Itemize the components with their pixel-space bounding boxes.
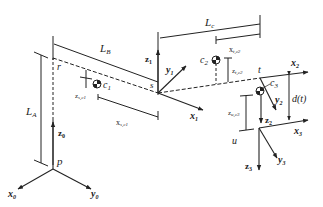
x2-axis bbox=[260, 72, 308, 78]
label-z0: z0 bbox=[58, 128, 65, 139]
label-y2: y2 bbox=[274, 94, 282, 106]
label-z1: z1 bbox=[145, 54, 152, 65]
label-z-uc3: zu,c3 bbox=[228, 109, 240, 118]
label-y3: y3 bbox=[277, 154, 285, 166]
label-c1: c1 bbox=[103, 79, 111, 92]
z-uc3-tick-top bbox=[240, 95, 253, 96]
c2-com-icon bbox=[212, 56, 220, 64]
label-la: LA bbox=[25, 105, 37, 119]
x1-axis bbox=[158, 93, 203, 110]
label-c3: c3 bbox=[270, 77, 278, 90]
c3-com-icon bbox=[256, 87, 264, 95]
label-z-sc1: zs,c1 bbox=[75, 92, 86, 101]
label-x0: x0 bbox=[7, 188, 16, 200]
kinematics-diagram: LA LB Lc r s t u p c1 c2 c3 zs,c1 xs,c1 … bbox=[0, 0, 323, 207]
label-x3: x3 bbox=[293, 125, 302, 137]
y0-axis bbox=[53, 169, 91, 189]
x-tc2-dimension bbox=[216, 34, 260, 40]
label-z3: z3 bbox=[245, 161, 252, 172]
label-lb: LB bbox=[99, 42, 111, 56]
label-p: p bbox=[56, 155, 63, 167]
label-u: u bbox=[232, 135, 237, 146]
label-c2: c2 bbox=[200, 54, 208, 67]
c1-com-icon bbox=[93, 80, 101, 88]
y3-axis bbox=[259, 128, 277, 158]
label-x-tc2: xt,c2 bbox=[229, 45, 241, 55]
label-s: s bbox=[150, 80, 154, 90]
link-s-t-dashed bbox=[158, 78, 260, 93]
label-z2: z2 bbox=[265, 115, 272, 126]
x-sc1-dimension bbox=[98, 97, 158, 117]
label-t: t bbox=[258, 64, 261, 75]
label-dt: d(t) bbox=[292, 93, 307, 105]
label-z-tc2: zt,c2 bbox=[232, 67, 243, 76]
label-lc: Lc bbox=[204, 16, 215, 30]
label-x1: x1 bbox=[189, 110, 198, 122]
label-y0: y0 bbox=[90, 188, 98, 200]
label-y1: y1 bbox=[165, 64, 173, 76]
label-r: r bbox=[57, 61, 61, 72]
label-x2: x2 bbox=[290, 57, 299, 69]
x0-axis bbox=[18, 169, 53, 189]
label-x-sc1: xs,c1 bbox=[116, 118, 128, 128]
